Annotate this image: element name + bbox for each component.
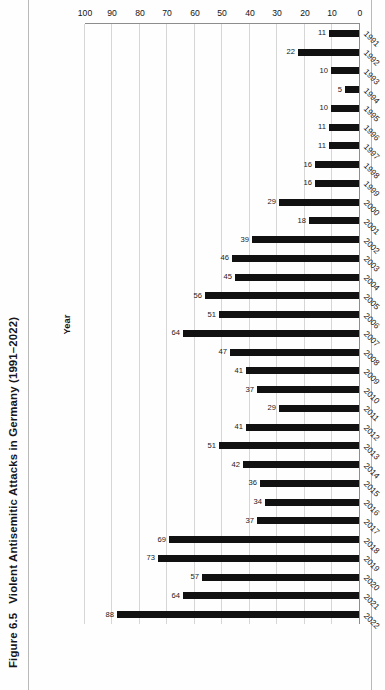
category-axis-tick: 1999	[362, 180, 381, 199]
category-axis-tick: 2013	[362, 442, 381, 461]
category-axis-tick: 1998	[362, 161, 381, 180]
gridline	[332, 24, 333, 624]
bar-value-label: 10	[320, 67, 328, 75]
bar-value-label: 34	[254, 498, 262, 506]
category-axis-tick: 1991	[362, 30, 381, 49]
category-axis-tick: 2012	[362, 423, 381, 442]
category-axis-tick: 2018	[362, 536, 381, 555]
bar	[202, 574, 359, 581]
bar-value-label: 11	[318, 29, 326, 37]
bar-value-label: 10	[320, 104, 328, 112]
category-axis-tick: 2001	[362, 217, 381, 236]
category-axis-tick: 2015	[362, 480, 381, 499]
figure-title-text: Violent Antisemitic Attacks in Germany (…	[7, 317, 19, 604]
bar	[233, 255, 360, 262]
bar	[219, 442, 359, 449]
value-axis-line	[359, 24, 360, 624]
category-axis-tick: 1997	[362, 142, 381, 161]
plot-area: 0102030405060708090100111991221992101993…	[85, 24, 360, 624]
bar-value-label: 39	[240, 236, 248, 244]
bar-value-label: 51	[207, 311, 215, 319]
category-axis-tick: 2011	[362, 405, 381, 424]
bar-value-label: 57	[191, 573, 199, 581]
bar	[169, 536, 359, 543]
category-axis-tick: 2003	[362, 255, 381, 274]
value-axis-tick: 80	[126, 8, 154, 18]
category-axis-tick: 2019	[362, 555, 381, 574]
page-canvas: Figure 6.5 Violent Antisemitic Attacks i…	[0, 0, 385, 690]
category-axis-tick: 2002	[362, 236, 381, 255]
bar-value-label: 41	[235, 423, 243, 431]
category-axis-tick: 2007	[362, 330, 381, 349]
bar-value-label: 64	[172, 592, 180, 600]
bar-value-label: 64	[172, 329, 180, 337]
bar	[244, 461, 360, 468]
gridline	[277, 24, 278, 624]
bar	[329, 124, 359, 131]
bar	[279, 199, 359, 206]
category-axis-tick: 1993	[362, 67, 381, 86]
bar-value-label: 16	[304, 179, 312, 187]
bar-value-label: 16	[304, 161, 312, 169]
bar-value-label: 11	[318, 142, 326, 150]
bar	[260, 480, 359, 487]
bar	[279, 405, 359, 412]
value-axis-tick: 40	[236, 8, 264, 18]
bar	[158, 555, 359, 562]
bar-value-label: 41	[235, 367, 243, 375]
bar-value-label: 56	[194, 292, 202, 300]
bar-chart: 0102030405060708090100111991221992101993…	[34, 4, 372, 686]
chart-rotated-wrapper: 0102030405060708090100111991221992101993…	[34, 4, 372, 686]
value-axis-tick: 100	[71, 8, 99, 18]
category-axis-tick: 2008	[362, 348, 381, 367]
bar	[246, 367, 359, 374]
bar-value-label: 73	[147, 554, 155, 562]
bar	[257, 517, 359, 524]
value-axis-tick: 60	[181, 8, 209, 18]
bar-value-label: 37	[246, 517, 254, 525]
category-axis-tick: 2010	[362, 386, 381, 405]
category-axis-tick: 2004	[362, 273, 381, 292]
value-axis-tick: 0	[346, 8, 374, 18]
category-axis-tick: 2020	[362, 573, 381, 592]
bar	[329, 30, 359, 37]
category-axis-line	[85, 23, 360, 24]
bar	[246, 424, 359, 431]
bar	[257, 386, 359, 393]
bar	[315, 161, 359, 168]
bar-value-label: 51	[207, 442, 215, 450]
bar-value-label: 69	[158, 536, 166, 544]
category-axis-tick: 2017	[362, 517, 381, 536]
gridline	[304, 24, 305, 624]
category-axis-tick: 1996	[362, 123, 381, 142]
bar	[235, 274, 359, 281]
category-axis-tick: 1995	[362, 105, 381, 124]
bar	[219, 311, 359, 318]
bar	[183, 330, 359, 337]
category-axis-tick: 2005	[362, 292, 381, 311]
bar-value-label: 42	[232, 461, 240, 469]
bar	[329, 142, 359, 149]
category-axis-tick: 2016	[362, 498, 381, 517]
bar-value-label: 88	[106, 611, 114, 619]
category-axis-tick: 2006	[362, 311, 381, 330]
gridline	[112, 24, 113, 624]
bar-value-label: 45	[224, 273, 232, 281]
bar	[332, 67, 360, 74]
page-rule-left	[28, 0, 29, 690]
bar	[266, 499, 360, 506]
bar-value-label: 5	[338, 86, 342, 94]
bar	[183, 592, 359, 599]
category-axis-tick: 2014	[362, 461, 381, 480]
gridline	[84, 24, 85, 624]
bar	[117, 611, 359, 618]
gridline	[222, 24, 223, 624]
value-axis-tick: 90	[99, 8, 127, 18]
bar-value-label: 22	[287, 48, 295, 56]
value-axis-tick: 50	[209, 8, 237, 18]
value-axis-tick: 20	[291, 8, 319, 18]
gridline	[194, 24, 195, 624]
category-axis-tick: 2021	[362, 592, 381, 611]
bar-value-label: 18	[298, 217, 306, 225]
value-axis-tick: 70	[154, 8, 182, 18]
